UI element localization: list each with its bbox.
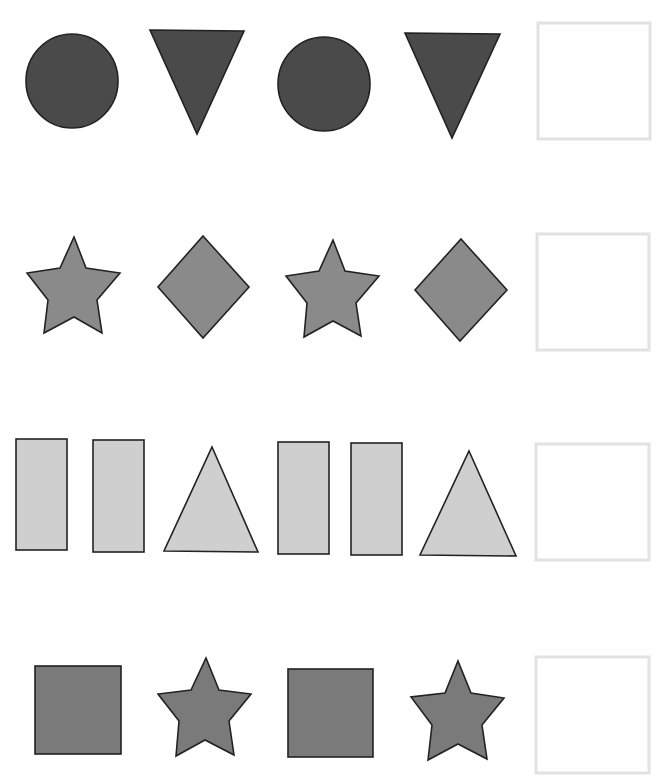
answer-box[interactable] [536,444,649,560]
star-shape [411,661,504,760]
diamond-shape [158,236,249,338]
pattern-worksheet [0,0,661,778]
triangle-down-shape [405,33,500,138]
row-4 [35,657,649,773]
star-shape [27,237,120,333]
answer-box[interactable] [537,234,649,350]
rectangle-shape [93,440,144,552]
triangle-up-shape [420,451,516,556]
rectangle-shape [16,439,67,550]
answer-box[interactable] [536,657,649,773]
rectangle-shape [351,443,402,555]
rectangle-shape [278,442,329,554]
circle-shape [278,37,370,131]
row-1 [26,23,650,139]
answer-box[interactable] [538,23,650,139]
triangle-up-shape [164,447,258,552]
row-2 [27,234,649,350]
diamond-shape [415,239,507,341]
triangle-down-shape [150,30,244,134]
star-shape [286,240,379,337]
star-shape [158,658,251,756]
circle-shape [26,34,118,128]
square-shape [35,666,121,754]
square-shape [288,669,373,757]
row-3 [16,439,649,560]
